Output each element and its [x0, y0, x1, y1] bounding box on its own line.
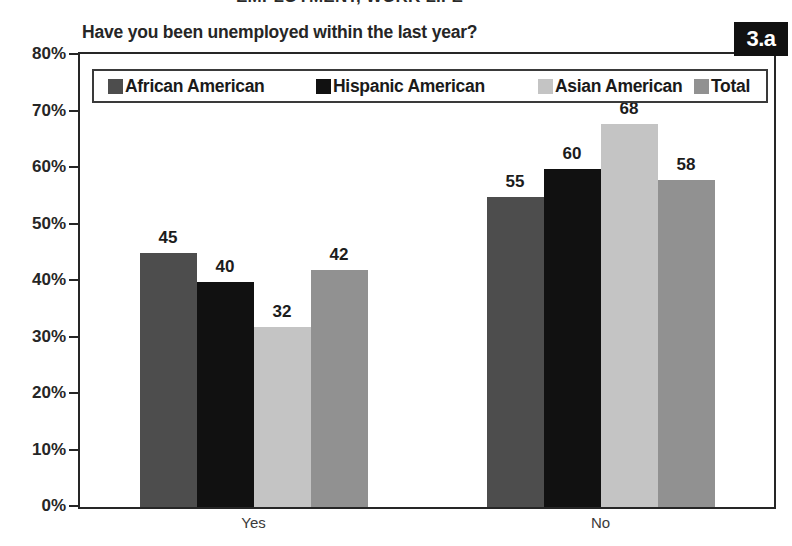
- legend-item-african-american[interactable]: African American: [108, 76, 264, 97]
- y-axis-tick-label: 0%: [41, 496, 66, 516]
- bar[interactable]: [601, 124, 658, 507]
- legend-swatch-icon: [694, 79, 709, 94]
- legend-item-hispanic-american[interactable]: Hispanic American: [316, 76, 485, 97]
- section-supertitle: EMPLOYMENT, WORK LIFE: [0, 0, 792, 14]
- y-axis-tick-mark: [69, 505, 78, 507]
- legend-swatch-icon: [538, 79, 553, 94]
- bar[interactable]: [140, 253, 197, 507]
- bar[interactable]: [658, 180, 715, 507]
- bar-value-label: 55: [506, 172, 525, 192]
- section-supertitle-text: EMPLOYMENT, WORK LIFE: [236, 0, 463, 7]
- bar-value-label: 60: [563, 144, 582, 164]
- y-axis-tick-mark: [69, 449, 78, 451]
- legend-item-label: African American: [125, 76, 264, 97]
- page-title: Have you been unemployed within the last…: [82, 22, 477, 43]
- legend-item-total[interactable]: Total: [694, 76, 750, 97]
- bar-value-label: 58: [677, 155, 696, 175]
- legend-swatch-icon: [316, 79, 331, 94]
- chart-figure: EMPLOYMENT, WORK LIFE Have you been unem…: [0, 0, 792, 546]
- y-axis-tick-label: 80%: [32, 44, 66, 64]
- y-axis-tick-label: 40%: [32, 270, 66, 290]
- bars-layer: 4540324255606858: [80, 54, 774, 507]
- x-axis: YesNo: [78, 514, 776, 542]
- y-axis: 0%10%20%30%40%50%60%70%80%: [0, 52, 78, 509]
- y-axis-tick-mark: [69, 336, 78, 338]
- bar-value-label: 40: [216, 257, 235, 277]
- legend-item-label: Hispanic American: [333, 76, 485, 97]
- chart-legend: African AmericanHispanic AmericanAsian A…: [92, 69, 768, 103]
- section-badge: 3.a: [734, 22, 788, 56]
- legend-item-label: Asian American: [555, 76, 682, 97]
- y-axis-tick-mark: [69, 166, 78, 168]
- x-axis-category-label: Yes: [241, 514, 265, 531]
- bar[interactable]: [254, 327, 311, 507]
- bar[interactable]: [311, 270, 368, 507]
- y-axis-tick-mark: [69, 279, 78, 281]
- bar[interactable]: [487, 197, 544, 507]
- y-axis-tick-label: 70%: [32, 101, 66, 121]
- y-axis-tick-label: 10%: [32, 440, 66, 460]
- y-axis-tick-label: 30%: [32, 327, 66, 347]
- x-axis-category-label: No: [591, 514, 610, 531]
- bar[interactable]: [197, 282, 254, 508]
- legend-item-asian-american[interactable]: Asian American: [538, 76, 682, 97]
- y-axis-tick-label: 50%: [32, 214, 66, 234]
- y-axis-tick-mark: [69, 392, 78, 394]
- bar-value-label: 42: [330, 245, 349, 265]
- y-axis-tick-label: 60%: [32, 157, 66, 177]
- legend-swatch-icon: [108, 79, 123, 94]
- y-axis-tick-label: 20%: [32, 383, 66, 403]
- y-axis-tick-mark: [69, 223, 78, 225]
- bar[interactable]: [544, 169, 601, 507]
- bar-value-label: 32: [273, 302, 292, 322]
- legend-item-label: Total: [711, 76, 750, 97]
- y-axis-tick-mark: [69, 53, 78, 55]
- y-axis-tick-mark: [69, 110, 78, 112]
- bar-value-label: 45: [159, 228, 178, 248]
